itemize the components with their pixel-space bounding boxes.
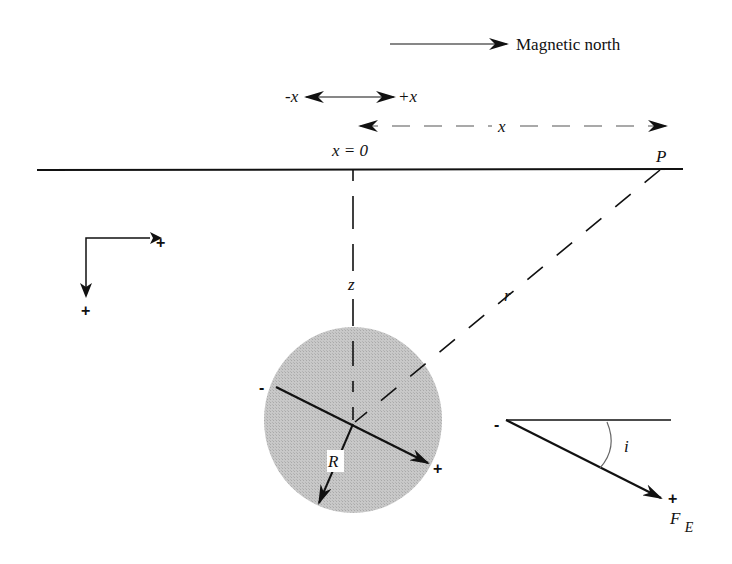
- minus-x-label: -x: [285, 87, 299, 106]
- inclination-i-label: i: [624, 437, 629, 456]
- horizontal-plus-label: +: [156, 234, 165, 251]
- axes-key-icon: [86, 238, 150, 295]
- field-vector: i - + F E: [494, 416, 694, 535]
- dipole-minus-label: -: [259, 379, 264, 396]
- dipole-plus-label: +: [433, 460, 442, 477]
- depth-z-label: z: [347, 275, 355, 294]
- north-arrow-legend: Magnetic north: [390, 35, 621, 54]
- point-p-label: P: [655, 147, 666, 166]
- vector-plus-label: +: [668, 490, 677, 507]
- x-direction-indicator: -x +x: [285, 87, 417, 106]
- field-subscript-e: E: [684, 520, 694, 535]
- distance-x-label: x: [497, 117, 506, 136]
- ground-surface-line: [37, 169, 683, 170]
- inclination-arc: [600, 422, 611, 468]
- field-vector-arrow-icon: [506, 420, 661, 498]
- horizontal-distance: x x = 0 P: [331, 116, 666, 166]
- field-f: F: [669, 509, 681, 528]
- axes-key: + +: [80, 232, 165, 319]
- field-fe-label: F E: [669, 509, 694, 535]
- diagram: Magnetic north -x +x x x = 0 P + + z r -: [0, 0, 732, 564]
- vertical-plus-label: +: [81, 302, 90, 319]
- plus-x-label: +x: [398, 87, 417, 106]
- north-arrow-label: Magnetic north: [516, 35, 621, 54]
- range-r-label: r: [504, 286, 511, 305]
- vector-minus-label: -: [494, 416, 499, 433]
- radius-r-label: R: [327, 452, 339, 471]
- origin-label: x = 0: [331, 141, 369, 160]
